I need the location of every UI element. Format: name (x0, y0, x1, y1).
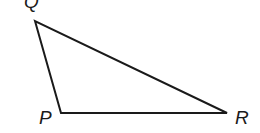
triangle-pqr (35, 21, 227, 113)
vertex-label-q: Q (24, 0, 39, 12)
triangle-diagram: Q P R (0, 0, 260, 133)
vertex-label-r: R (235, 107, 249, 128)
vertex-label-p: P (39, 107, 52, 128)
